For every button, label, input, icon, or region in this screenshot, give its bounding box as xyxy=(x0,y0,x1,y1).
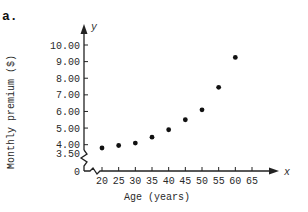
y-tick-label: 0 xyxy=(74,167,80,178)
x-tick-label: 40 xyxy=(163,176,175,187)
x-tick-label: 20 xyxy=(96,176,108,187)
y-axis-symbol: y xyxy=(90,22,98,33)
scatter-plot: a. y x 03.504.005.006.007.008.009.0010.0… xyxy=(0,0,308,212)
data-point xyxy=(116,143,121,148)
data-point xyxy=(233,55,238,60)
data-point xyxy=(200,107,205,112)
y-tick-label: 9.00 xyxy=(56,57,80,68)
x-tick-label: 45 xyxy=(179,176,191,187)
y-tick-label: 4.00 xyxy=(56,140,80,151)
data-points xyxy=(100,55,238,150)
y-tick-label: 6.00 xyxy=(56,107,80,118)
y-tick-label: 10.00 xyxy=(50,41,80,52)
data-point xyxy=(216,85,221,90)
data-point xyxy=(100,146,105,151)
y-tick-label: 8.00 xyxy=(56,74,80,85)
y-axis-label: Monthly premium ($) xyxy=(6,55,17,169)
x-axis-symbol: x xyxy=(283,167,290,178)
x-tick-label: 25 xyxy=(113,176,125,187)
x-tick-label: 60 xyxy=(229,176,241,187)
data-point xyxy=(183,117,188,122)
y-axis-arrow-icon xyxy=(81,24,88,34)
x-tick-label: 55 xyxy=(213,176,225,187)
x-tick-label: 35 xyxy=(146,176,158,187)
x-tick-label: 50 xyxy=(196,176,208,187)
x-ticks: 20253035404550556065 xyxy=(96,167,258,187)
data-point xyxy=(150,135,155,140)
x-tick-label: 65 xyxy=(246,176,258,187)
x-axis-line xyxy=(84,168,270,174)
y-tick-label: 7.00 xyxy=(56,90,80,101)
x-tick-label: 30 xyxy=(129,176,141,187)
data-point xyxy=(166,127,171,132)
axes xyxy=(81,32,270,174)
y-axis-break xyxy=(81,150,87,171)
data-point xyxy=(133,141,138,146)
chart-figure: a. y x 03.504.005.006.007.008.009.0010.0… xyxy=(0,0,308,212)
x-axis-arrow-icon xyxy=(269,168,279,175)
y-tick-label: 5.00 xyxy=(56,124,80,135)
part-label: a. xyxy=(2,9,18,24)
x-axis-label: Age (years) xyxy=(124,192,190,203)
